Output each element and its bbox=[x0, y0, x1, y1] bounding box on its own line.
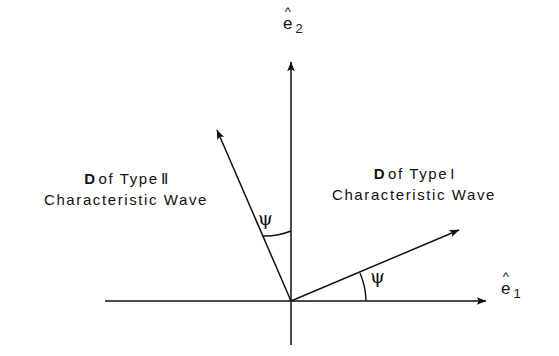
type-two-bold-d: D bbox=[84, 170, 98, 187]
type-one-caption-line-two: Characteristic Wave bbox=[318, 184, 510, 205]
type-one-caption-line-one: Dof TypeI bbox=[318, 163, 510, 184]
type-two-of-type-text: of Type bbox=[99, 170, 159, 187]
type-two-angle-symbol: ψ bbox=[258, 207, 273, 229]
type-one-caption: Dof TypeI Characteristic Wave bbox=[318, 163, 510, 205]
type-one-roman-numeral: I bbox=[448, 165, 454, 182]
e-hat-1-glyph: ^e bbox=[501, 279, 510, 299]
type-two-caption-line-one: Dof TypeⅡ bbox=[32, 168, 220, 189]
type-one-bold-d: D bbox=[374, 165, 388, 182]
horizontal-axis-subscript: 1 bbox=[510, 286, 520, 301]
vertical-axis-label: ^e2 bbox=[283, 14, 303, 36]
vertical-axis-subscript: 2 bbox=[292, 21, 302, 36]
figure-canvas: ^e2 ^e1 Dof TypeⅡ Characteristic Wave Do… bbox=[0, 0, 559, 356]
type-two-roman-numeral: Ⅱ bbox=[159, 170, 168, 187]
type-one-of-type-text: of Type bbox=[388, 165, 448, 182]
type-one-angle-symbol: ψ bbox=[370, 265, 385, 287]
type-one-angle-arc bbox=[360, 273, 366, 301]
type-two-angle-arc bbox=[263, 231, 291, 236]
horizontal-axis-label: ^e1 bbox=[501, 279, 521, 301]
type-two-vector-ray bbox=[217, 130, 291, 301]
e-hat-2-glyph: ^e bbox=[283, 14, 292, 34]
type-two-caption: Dof TypeⅡ Characteristic Wave bbox=[32, 168, 220, 210]
type-two-caption-line-two: Characteristic Wave bbox=[32, 189, 220, 210]
